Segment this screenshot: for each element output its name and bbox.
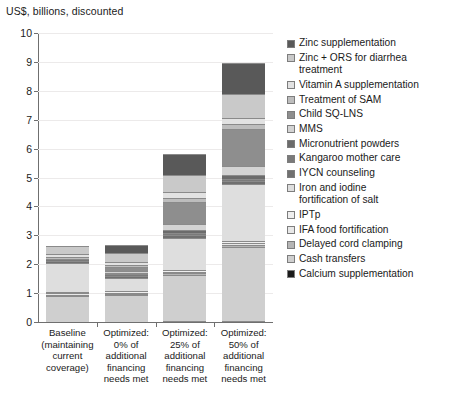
bar-segment: [163, 321, 206, 322]
legend-label: Zinc supplementation: [299, 37, 396, 49]
y-tick-mark: [34, 178, 38, 179]
legend-swatch-icon: [287, 184, 295, 192]
bar-segment: [222, 166, 265, 175]
y-tick-mark: [34, 264, 38, 265]
plot-inner: 012345678910: [38, 33, 273, 323]
legend-label: Cash transfers: [299, 253, 365, 265]
legend-item[interactable]: Zinc + ORS for diarrhea treatment: [287, 52, 458, 77]
legend-swatch-icon: [287, 155, 295, 163]
legend-swatch-icon: [287, 40, 295, 48]
legend-swatch-icon: [287, 125, 295, 133]
legend-label: Delayed cord clamping: [299, 238, 403, 250]
bar-segment: [46, 246, 89, 255]
legend-item[interactable]: MMS: [287, 123, 458, 135]
bar-segment: [163, 202, 206, 225]
bar-segment: [105, 245, 148, 253]
bar-segment: [46, 296, 89, 322]
legend-item[interactable]: Child SQ-LNS: [287, 108, 458, 120]
legend-swatch-icon: [287, 170, 295, 178]
bar-segment: [163, 175, 206, 192]
plot-area: 012345678910: [38, 33, 273, 323]
y-tick-mark: [34, 206, 38, 207]
legend-swatch-icon: [287, 96, 295, 104]
legend-swatch-icon: [287, 111, 295, 119]
y-tick-label: 3: [26, 229, 32, 241]
bar-segment: [163, 238, 206, 270]
bar-segment: [105, 295, 148, 322]
x-axis-label: Baseline (maintaining current coverage): [38, 327, 97, 373]
legend-label: Calcium supplementation: [299, 268, 413, 280]
y-tick-label: 10: [20, 27, 32, 39]
legend-swatch-icon: [287, 81, 295, 89]
legend-item[interactable]: Cash transfers: [287, 253, 458, 265]
legend-swatch-icon: [287, 211, 295, 219]
legend-label: IYCN counseling: [299, 167, 375, 179]
bar-segment: [222, 247, 265, 321]
legend-label: Treatment of SAM: [299, 94, 381, 106]
legend-item[interactable]: Iron and iodine fortification of salt: [287, 182, 458, 207]
legend-label: Kangaroo mother care: [299, 152, 400, 164]
legend-item[interactable]: Vitamin A supplementation: [287, 79, 458, 91]
y-tick-label: 1: [26, 287, 32, 299]
bar-segment: [163, 275, 206, 321]
y-tick-mark: [34, 33, 38, 34]
chart-legend: Zinc supplementationZinc + ORS for diarr…: [287, 37, 458, 282]
y-tick-label: 9: [26, 56, 32, 68]
y-tick-label: 0: [26, 316, 32, 328]
y-tick-label: 4: [26, 200, 32, 212]
legend-item[interactable]: IYCN counseling: [287, 167, 458, 179]
legend-label: IPTp: [299, 209, 321, 221]
legend-swatch-icon: [287, 255, 295, 263]
legend-label: Micronutrient powders: [299, 138, 399, 150]
y-tick-mark: [34, 120, 38, 121]
legend-label: IFA food fortification: [299, 224, 388, 236]
bar-column: [105, 245, 148, 322]
legend-label: Vitamin A supplementation: [299, 79, 419, 91]
legend-swatch-icon: [287, 241, 295, 249]
legend-swatch-icon: [287, 226, 295, 234]
legend-swatch-icon: [287, 270, 295, 278]
legend-label: Iron and iodine fortification of salt: [299, 182, 378, 207]
bar-segment: [222, 321, 265, 322]
legend-item[interactable]: IFA food fortification: [287, 224, 458, 236]
legend-item[interactable]: Kangaroo mother care: [287, 152, 458, 164]
bar-segment: [46, 263, 89, 291]
legend-swatch-icon: [287, 140, 295, 148]
y-tick-mark: [34, 235, 38, 236]
bar-segment: [222, 129, 265, 167]
bar-column: [46, 246, 89, 322]
y-axis-title: US$, billions, discounted: [6, 5, 123, 17]
bar-segment: [222, 184, 265, 241]
y-tick-label: 2: [26, 258, 32, 270]
x-axis-labels: Baseline (maintaining current coverage)O…: [38, 327, 273, 413]
stacked-bar-chart: US$, billions, discounted 012345678910 B…: [0, 0, 458, 413]
legend-swatch-icon: [287, 54, 295, 62]
y-tick-label: 7: [26, 114, 32, 126]
bar-segment: [105, 278, 148, 291]
legend-item[interactable]: Zinc supplementation: [287, 37, 458, 49]
legend-item[interactable]: Delayed cord clamping: [287, 238, 458, 250]
bar-segment: [222, 94, 265, 118]
legend-item[interactable]: Micronutrient powders: [287, 138, 458, 150]
bar-segment: [222, 63, 265, 95]
bar-segment: [105, 253, 148, 262]
legend-label: Child SQ-LNS: [299, 108, 363, 120]
bar-column: [222, 63, 265, 322]
y-tick-label: 5: [26, 172, 32, 184]
legend-label: MMS: [299, 123, 323, 135]
bar-column: [163, 154, 206, 322]
y-tick-mark: [34, 62, 38, 63]
x-axis-label: Optimized: 25% of additional financing n…: [156, 327, 215, 385]
x-axis-label: Optimized: 50% of additional financing n…: [214, 327, 273, 385]
y-tick-mark: [34, 293, 38, 294]
legend-label: Zinc + ORS for diarrhea treatment: [299, 52, 407, 77]
y-tick-mark: [34, 322, 38, 323]
y-tick-mark: [34, 149, 38, 150]
legend-item[interactable]: IPTp: [287, 209, 458, 221]
legend-item[interactable]: Treatment of SAM: [287, 94, 458, 106]
y-tick-mark: [34, 91, 38, 92]
y-tick-label: 6: [26, 143, 32, 155]
bar-segment: [163, 154, 206, 175]
legend-item[interactable]: Calcium supplementation: [287, 268, 458, 280]
gridline: [38, 33, 273, 34]
